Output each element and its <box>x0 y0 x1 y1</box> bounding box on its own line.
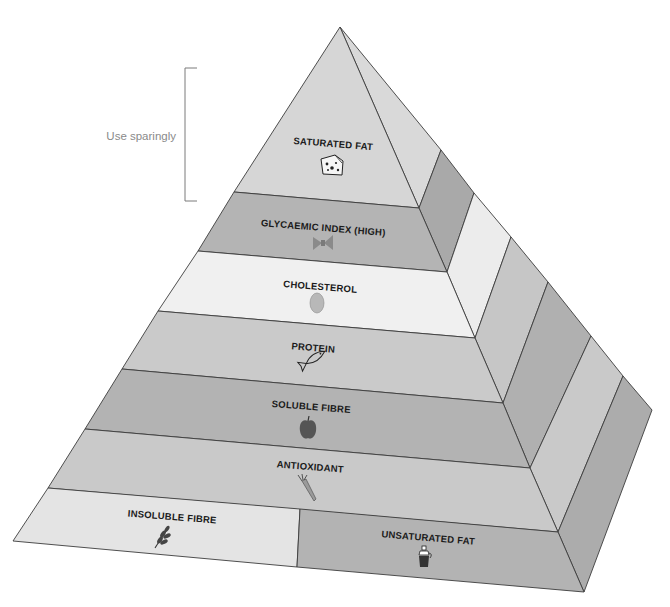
bracket <box>185 68 197 201</box>
use-sparingly-annotation: Use sparingly <box>106 68 197 201</box>
use-sparingly-label: Use sparingly <box>106 130 176 142</box>
food-pyramid-diagram: Use sparingly SATURATED FAT GLYCAEM <box>0 0 670 607</box>
cheese-icon <box>321 155 343 175</box>
egg-icon <box>310 293 324 313</box>
